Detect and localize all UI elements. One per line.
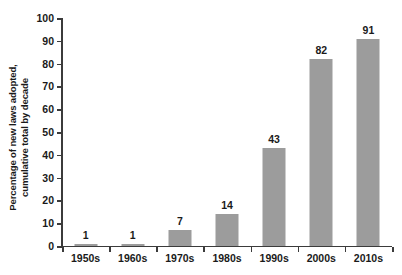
bar-group: 91 [345,18,392,246]
bar-group: 14 [203,18,250,246]
x-axis-category-label: 1990s [260,252,289,264]
y-axis-tick-label: 90 [42,35,54,47]
bar-value-label: 7 [177,215,183,227]
bar[interactable] [215,214,238,246]
bar-value-label: 43 [268,133,280,145]
bar-group: 7 [156,18,203,246]
y-axis-title: Percentage of new laws adopted, cumulati… [0,0,38,275]
bar-value-label: 1 [83,229,89,241]
x-axis-category-label: 2010s [354,252,383,264]
y-axis-tick-label: 60 [42,103,54,115]
y-axis-tick-label: 40 [42,149,54,161]
y-axis-tick-label: 10 [42,217,54,229]
bar[interactable] [357,39,380,246]
y-axis-tick-label: 20 [42,194,54,206]
y-axis-title-line-2: cumulative total by decade [19,78,31,197]
bar-series: 11714438291 [62,18,392,246]
bar-group: 43 [251,18,298,246]
x-axis-labels: 1950s1960s1970s1980s1990s2000s2010s [62,252,392,268]
plot-area: 0102030405060708090100 11714438291 [62,18,392,246]
bar[interactable] [121,244,144,246]
x-axis-category-label: 1970s [165,252,194,264]
bar[interactable] [74,244,97,246]
x-axis-category-label: 1950s [71,252,100,264]
bar-group: 82 [298,18,345,246]
y-axis-tick-label: 30 [42,172,54,184]
bar-chart: Percentage of new laws adopted, cumulati… [0,0,402,275]
y-axis-tick-label: 50 [42,126,54,138]
x-axis-tick [392,247,394,252]
bar[interactable] [168,230,191,246]
bar-value-label: 1 [130,229,136,241]
bar-group: 1 [62,18,109,246]
x-axis-category-label: 1960s [118,252,147,264]
x-axis-category-label: 1980s [212,252,241,264]
bar[interactable] [263,148,286,246]
bar-value-label: 82 [315,44,327,56]
y-axis-title-line-1: Percentage of new laws adopted, [7,64,19,210]
bar-value-label: 91 [363,24,375,36]
bar-group: 1 [109,18,156,246]
y-axis-tick-label: 0 [48,240,54,252]
y-axis-tick-label: 70 [42,80,54,92]
bar-value-label: 14 [221,199,233,211]
y-axis-tick-label: 80 [42,58,54,70]
y-axis-tick-label: 100 [36,12,54,24]
bar[interactable] [310,59,333,246]
x-axis-category-label: 2000s [307,252,336,264]
